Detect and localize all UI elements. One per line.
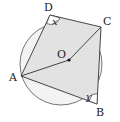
label-O: O [57,48,66,61]
centre-point [67,58,70,61]
label-D: D [44,1,53,14]
label-B: B [96,106,104,119]
angle-label-x: x [52,16,58,27]
angle-label-y: y [85,91,92,102]
label-C: C [103,15,111,28]
geometry-diagram: D C A B O x y [0,0,120,122]
label-A: A [8,71,18,84]
